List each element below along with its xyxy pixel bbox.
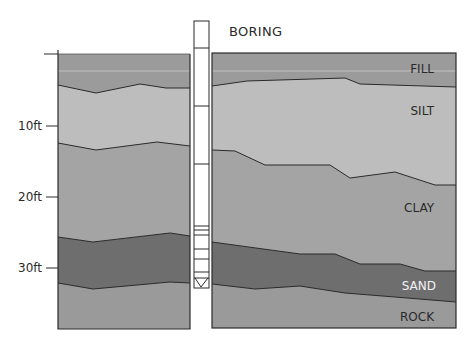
boring-pipe	[194, 21, 209, 288]
layer-label-clay: CLAY	[404, 201, 435, 215]
layer-label-sand: SAND	[402, 279, 436, 293]
sand-layer-left	[58, 233, 190, 289]
silt-layer-left	[58, 84, 190, 150]
left-soil-block	[58, 50, 190, 329]
axis-label-20ft: 20ft	[18, 190, 42, 204]
layer-label-fill: FILL	[410, 62, 434, 76]
layer-label-silt: SILT	[410, 104, 434, 118]
clay-layer-left	[58, 142, 190, 242]
diagram-title: BORING	[229, 24, 282, 39]
soil-boring-diagram: 10ft 20ft 30ft BORING FILL SILT CLAY SAN…	[0, 0, 472, 348]
axis-label-10ft: 10ft	[18, 119, 42, 133]
layer-label-rock: ROCK	[400, 310, 435, 324]
axis-label-30ft: 30ft	[18, 261, 42, 275]
depth-axis: 10ft 20ft 30ft	[18, 54, 58, 275]
